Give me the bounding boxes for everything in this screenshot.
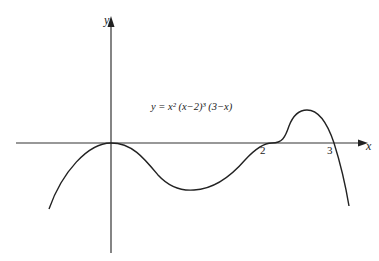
- equation-label: y = x² (x−2)³ (3−x): [150, 101, 233, 113]
- function-curve: [49, 110, 349, 209]
- x-axis-label: x: [365, 139, 372, 153]
- tick-label-2: 2: [260, 144, 266, 156]
- y-axis-label: y: [103, 13, 110, 27]
- function-graph: y x 2 3 y = x² (x−2)³ (3−x): [0, 0, 379, 261]
- tick-label-3: 3: [327, 144, 333, 156]
